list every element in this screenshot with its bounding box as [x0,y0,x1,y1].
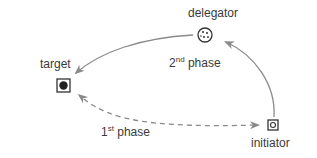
delegator-label: delegator [188,6,238,20]
second-phase-label: 2nd phase [169,56,221,70]
first-phase-label: 1st phase [101,125,150,139]
edge-initiator-to-delegator [226,42,274,117]
target-icon [57,79,70,92]
initiator-icon [268,120,278,130]
delegator-icon [198,28,212,42]
diagram-edges [0,0,317,158]
edge-first-phase [84,99,258,126]
diagram: delegator target initiator 2nd phase 1st… [0,0,317,158]
target-label: target [40,57,71,71]
initiator-label: initiator [251,136,290,150]
